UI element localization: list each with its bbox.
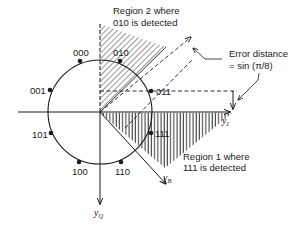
psk-constellation-diagram: 000 010 011 001 101 100 110 111 yI yQ yB… — [0, 0, 297, 227]
label-110: 110 — [115, 166, 130, 177]
point-110 — [119, 160, 124, 165]
label-011: 011 — [156, 86, 171, 97]
point-011 — [149, 89, 154, 94]
point-101 — [49, 131, 54, 136]
axis-label-yi: yI — [221, 115, 229, 127]
label-100: 100 — [72, 166, 88, 177]
error-distance-label-line2: = sin (π/8) — [229, 60, 273, 71]
region-1-label-line1: Region 1 where — [183, 151, 250, 162]
region-2-label-line1: Region 2 where — [113, 5, 180, 16]
axis-label-yb: yB — [162, 172, 171, 184]
label-010: 010 — [113, 47, 129, 58]
label-111: 111 — [155, 128, 169, 139]
region-2-label-line2: 010 is detected — [113, 17, 177, 28]
error-distance-label-line1: Error distance — [229, 48, 288, 59]
point-000 — [78, 59, 83, 64]
label-001: 001 — [30, 85, 46, 96]
point-100 — [77, 160, 82, 165]
annotation-pointer-upper — [193, 48, 222, 59]
label-000: 000 — [73, 47, 89, 58]
annotation-pointer-lower — [238, 73, 259, 100]
point-001 — [48, 88, 53, 93]
region-1-label-line2: 111 is detected — [183, 162, 246, 173]
axis-label-yq: yQ — [93, 207, 103, 219]
label-101: 101 — [32, 129, 48, 140]
region-2-hatched-area — [100, 24, 166, 112]
point-010 — [118, 59, 123, 64]
point-111 — [149, 131, 154, 136]
